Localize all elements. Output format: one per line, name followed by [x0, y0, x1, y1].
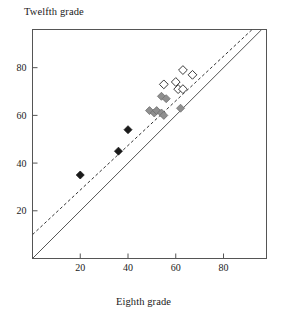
x-tick-label: 20 — [75, 262, 85, 273]
plot-canvas: 2040608020406080 — [0, 0, 287, 310]
x-tick-label: 80 — [219, 262, 229, 273]
data-point-black-filled-diamonds — [76, 171, 84, 179]
data-point-open-diamonds — [188, 70, 197, 79]
regression-line — [33, 30, 253, 235]
x-tick-label: 60 — [171, 262, 181, 273]
y-tick-label: 60 — [17, 110, 27, 121]
identity-line — [33, 30, 262, 259]
y-tick-label: 40 — [17, 158, 27, 169]
data-point-open-diamonds — [179, 66, 188, 75]
data-point-open-diamonds — [159, 80, 168, 89]
data-point-black-filled-diamonds — [124, 126, 132, 134]
plot-frame — [33, 30, 267, 259]
data-point-black-filled-diamonds — [114, 147, 122, 155]
x-axis-title: Eighth grade — [0, 296, 287, 307]
x-tick-label: 40 — [123, 262, 133, 273]
data-point-gray-filled-diamonds — [177, 104, 185, 112]
y-tick-label: 80 — [17, 62, 27, 73]
scatter-plot: Twelfth grade 2040608020406080 Eighth gr… — [0, 0, 287, 310]
y-tick-label: 20 — [17, 205, 27, 216]
